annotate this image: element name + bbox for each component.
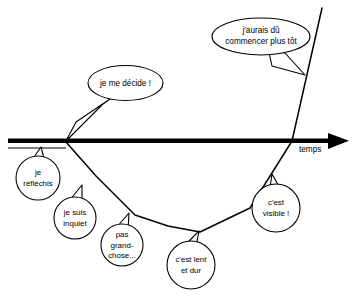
bubble-label-je-suis-inquiet-line1: je suis bbox=[63, 208, 86, 217]
bubble-body-je-reflechis bbox=[16, 156, 60, 200]
bubble-cest-lent-et-dur[interactable]: c'est lent et dur bbox=[167, 231, 215, 289]
bubble-body-je-suis-inquiet bbox=[54, 197, 96, 239]
bubble-label-je-me-decide: je me décide ! bbox=[99, 79, 151, 88]
bubble-label-cest-lent-et-dur-line1: c'est lent bbox=[176, 255, 208, 264]
bubble-label-cest-visible-line2: visible ! bbox=[263, 209, 289, 218]
bubble-label-je-reflechis-line1: je bbox=[34, 168, 42, 177]
bubble-je-reflechis[interactable]: je réfléchis bbox=[16, 147, 60, 200]
bubble-label-jaurais-du-line2: commencer plus tôt bbox=[225, 37, 297, 46]
bubble-label-pas-grand-chose-line1: pas bbox=[116, 230, 129, 239]
bubble-pas-grand-chose[interactable]: pas grand- chose... bbox=[101, 213, 143, 266]
time-axis-arrow-icon bbox=[328, 133, 349, 149]
time-axis-label: temps bbox=[299, 145, 321, 154]
bubble-label-jaurais-du-line1: j'aurais dû bbox=[241, 26, 280, 35]
bubble-label-cest-lent-et-dur-line2: et dur bbox=[181, 266, 202, 275]
bubble-jaurais-du-commencer-plus-tot[interactable]: j'aurais dû commencer plus tôt bbox=[212, 18, 310, 75]
figure-canvas: temps je me décide ! j'aurais dû commenc… bbox=[0, 0, 361, 298]
bubble-tail-je-me-decide bbox=[66, 99, 110, 141]
bubble-je-suis-inquiet[interactable]: je suis inquiet bbox=[54, 185, 96, 239]
bubble-label-pas-grand-chose-line3: chose... bbox=[108, 251, 136, 260]
procrastination-curve-figure: temps je me décide ! j'aurais dû commenc… bbox=[0, 0, 361, 298]
bubble-label-pas-grand-chose-line2: grand- bbox=[111, 241, 134, 250]
bubble-je-me-decide[interactable]: je me décide ! bbox=[66, 66, 163, 142]
bubble-body-cest-lent-et-dur bbox=[167, 241, 215, 289]
bubble-label-je-reflechis-line2: réfléchis bbox=[23, 179, 52, 188]
bubble-cest-visible[interactable]: c'est visible ! bbox=[252, 174, 300, 232]
time-axis-line bbox=[8, 139, 332, 144]
bubble-label-cest-visible-line1: c'est bbox=[268, 198, 285, 207]
bubble-label-je-suis-inquiet-line2: inquiet bbox=[63, 219, 87, 228]
bubble-body-cest-visible bbox=[252, 184, 300, 232]
